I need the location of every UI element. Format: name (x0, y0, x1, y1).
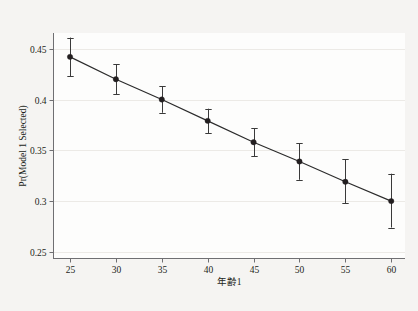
y-tick-label: 0.35 (30, 146, 47, 156)
x-tick-label: 55 (341, 265, 351, 275)
x-tick-label: 25 (66, 265, 76, 275)
plot-area-background (53, 33, 405, 258)
y-tick-label: 0.25 (30, 248, 47, 258)
x-tick-label: 30 (112, 265, 122, 275)
data-point-marker (205, 118, 210, 123)
y-tick-label: 0.45 (30, 45, 47, 55)
x-tick-label: 60 (387, 265, 397, 275)
chart-figure: 0.250.30.350.40.45 2530354045505560 Pr(M… (0, 0, 418, 311)
data-point-marker (67, 54, 72, 59)
data-point-marker (251, 139, 256, 144)
x-tick-label: 35 (158, 265, 168, 275)
data-point-marker (113, 77, 118, 82)
data-point-marker (159, 97, 164, 102)
data-point-marker (297, 159, 302, 164)
chart-canvas: 0.250.30.350.40.45 2530354045505560 Pr(M… (0, 0, 418, 311)
x-tick-label: 50 (295, 265, 305, 275)
y-axis-title: Pr(Model 1 Selected) (18, 105, 29, 186)
y-tick-label: 0.4 (35, 96, 47, 106)
data-point-marker (389, 198, 394, 203)
x-axis-title: 年齢1 (217, 276, 242, 287)
y-tick-label: 0.3 (35, 197, 47, 207)
x-tick-label: 45 (250, 265, 260, 275)
data-point-marker (343, 179, 348, 184)
x-tick-label: 40 (204, 265, 214, 275)
